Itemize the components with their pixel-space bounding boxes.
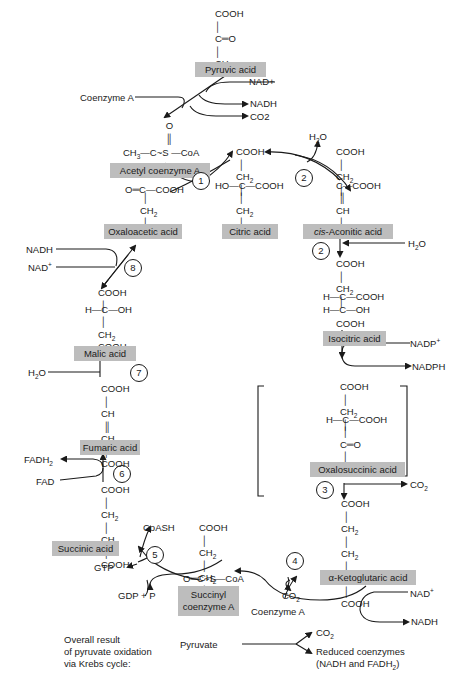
h2o-released-label: H2O [309,131,327,142]
fad-label: FAD [36,476,54,487]
step-8-marker: 8 [124,259,142,277]
h2o-added-label: H2O [408,238,426,249]
summary-heading: Overall resultof pyruvate oxidationvia K… [64,634,152,670]
oxalosuccinic-formula-mid: H—C—COOH [326,414,387,425]
acetyl-coa-formula-main: CH3—C~S —CoA [123,147,199,158]
fumaric-acid-label: Fumaric acid [80,440,140,455]
pyruvic-acid-label: Pyruvic acid [195,62,266,77]
cis-aconitic-formula-mid: C—COOH [336,180,381,191]
oxalosuccinic-acid-label: Oxalosuccinic acid [310,462,405,477]
oxaloacetic-acid-label: Oxaloacetic acid [104,224,182,239]
alpha-ketoglutaric-acid-label: α-Ketoglutaric acid [320,570,416,585]
nad-plus-label: NAD+ [249,76,275,87]
coash-label: CoASH [143,522,175,533]
krebs-cycle-diagram: COOH │ C═O │ CH3 Pyruvic acid NAD+ NADH … [0,0,462,679]
malic-acid-label: Malic acid [74,346,136,361]
step-4-marker: 4 [286,552,304,570]
nadh-step8-label: NADH [26,244,53,255]
nadh-step4-label: NADH [411,616,438,627]
step-5-marker: 5 [146,546,164,564]
co2-step4-label: CO2 [282,590,300,601]
summary-output-coenzymes: Reduced coenzymes(NADH and FADH2) [316,646,405,670]
isocitric-formula-mid1: H—C—COOH [323,291,384,302]
step-2-marker: 2 [295,169,313,187]
nadph-label: NADPH [412,361,445,372]
citric-acid-label: Citric acid [222,224,278,239]
succinic-acid-formula: COOH │ CH2 │ CH2 │ COOH [101,484,130,572]
fadh2-label: FADH2 [24,454,53,465]
succinyl-coa-label: Succinylcoenzyme A [178,586,239,616]
coenzyme-a-step4-label: Coenzyme A [251,606,305,617]
step-7-marker: 7 [130,364,148,382]
step-1-marker: 1 [192,172,210,190]
nadp-plus-label: NADP+ [410,338,440,349]
summary-output-co2: CO2 [316,627,334,638]
nad-plus-step8-label: NAD+ [28,262,52,273]
isocitric-formula-mid2: H—C—OH [323,304,370,315]
succinyl-coa-formula-bottom: O═C~S—CoA [183,573,244,584]
co2-step3-label: CO2 [410,479,428,490]
nadh-label: NADH [250,98,277,109]
fumaric-acid-formula: COOH │ CH ║ CH │ COOH [101,383,130,471]
nad-plus-step4-label: NAD+ [410,588,434,599]
co2-label: CO2 [250,111,270,122]
isocitric-formula-bottom: COOH [336,318,365,329]
gdp-p-label: GDP + P [118,590,156,601]
step-2b-marker: 2 [312,242,330,260]
isocitric-acid-label: Isocitric acid [323,331,386,346]
coenzyme-a-label: Coenzyme A [80,92,134,103]
step-3-marker: 3 [316,481,334,499]
alpha-ketoglutaric-acid-formula: COOH │ CH2 │ CH2 │ C═O │ COOH [341,498,370,611]
citric-acid-formula-mid: HO—C—COOH [215,180,284,191]
h2o-step7-label: H2O [28,367,46,378]
malic-formula-mid: H—C—OH [85,304,132,315]
acetyl-coa-formula: O ║ [150,120,173,145]
summary-input-pyruvate: Pyruvate [180,639,218,650]
cis-aconitic-acid-label: cis-Aconitic acid [303,224,393,239]
succinic-acid-label: Succinic acid [52,541,119,556]
